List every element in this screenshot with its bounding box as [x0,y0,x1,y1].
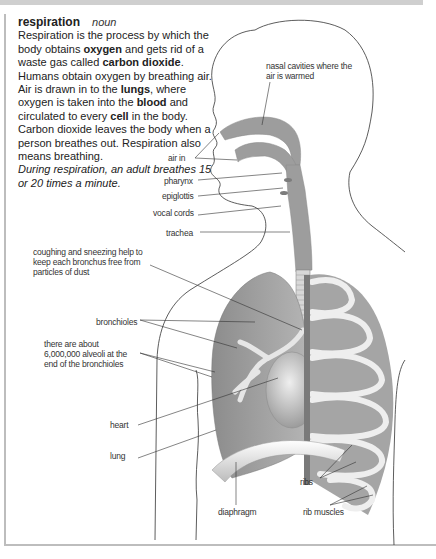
label-vocal-cords: vocal cords [153,208,194,218]
label-epiglottis: epiglottis [162,191,194,201]
label-nasal-cavities: nasal cavities where the air is warmed [266,61,358,81]
ribcage [307,274,393,515]
label-diaphragm: diaphragm [218,507,256,517]
label-pharynx: pharynx [164,176,193,186]
label-ribs: ribs [300,477,313,487]
label-coughing: coughing and sneezing help to keep each … [33,247,151,277]
upper-airway [220,117,312,272]
label-air-in: air in [168,153,185,163]
label-alveoli: there are about 6,000,000 alveoli at the… [44,339,134,369]
label-lung: lung [110,451,125,461]
label-trachea: trachea [166,228,193,238]
label-bronchioles: bronchioles [96,317,137,327]
label-heart: heart [110,420,128,430]
label-rib-muscles: rib muscles [303,507,344,517]
